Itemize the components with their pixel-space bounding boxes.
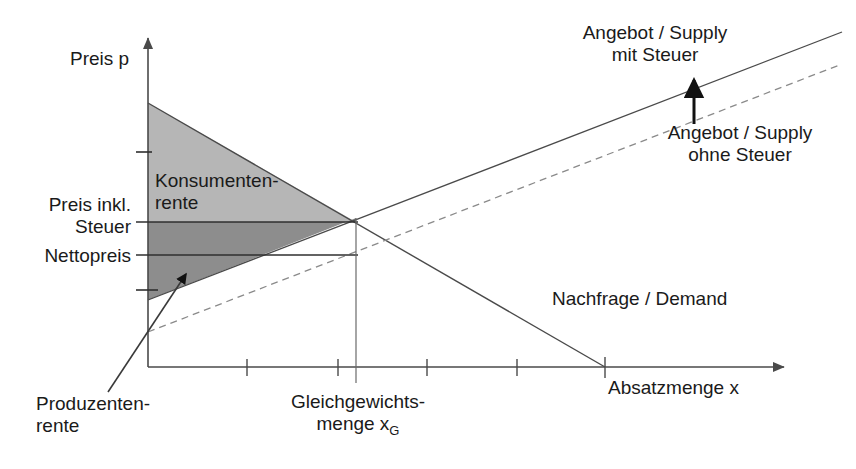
producer-surplus-label: Produzenten- rente <box>36 393 150 437</box>
equilibrium-quantity-label: Gleichgewichts- menge xG <box>291 391 425 442</box>
supply-without-tax-label: Angebot / Supply ohne Steuer <box>668 122 813 166</box>
consumer-surplus-label: Konsumenten- rente <box>155 170 279 214</box>
equilibrium-quantity-line2: menge xG <box>291 413 425 442</box>
supply-with-tax-label: Angebot / Supply mit Steuer <box>583 22 728 66</box>
y-axis-label: Preis p <box>70 48 129 70</box>
producer-surplus-arrow <box>108 274 186 392</box>
net-price-label: Nettopreis <box>44 245 131 267</box>
x-axis-label: Absatzmenge x <box>608 377 739 399</box>
diagram-canvas: Preis p Preis inkl. Steuer Nettopreis Ko… <box>0 0 856 469</box>
demand-label: Nachfrage / Demand <box>552 288 727 310</box>
price-incl-tax-label: Preis inkl. Steuer <box>49 194 131 238</box>
equilibrium-subscript: G <box>389 423 399 438</box>
